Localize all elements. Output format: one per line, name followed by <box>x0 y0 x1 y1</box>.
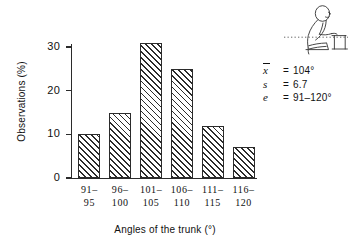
bar-chart-figure: 0102030 Observations (%) Angles of the t… <box>0 0 354 248</box>
bar <box>140 43 162 178</box>
seated-person-leaning-forward-icon <box>282 4 350 58</box>
statistics-block: x=104°s=6.7e=91–120° <box>263 64 332 105</box>
y-axis-title: Observations (%) <box>16 37 27 167</box>
x-axis-category-label-line: 116– <box>221 184 267 197</box>
statistic-row: x=104° <box>263 64 332 78</box>
plot-area <box>72 40 258 178</box>
y-axis-tick-label: 0 <box>20 172 60 183</box>
statistic-value: 91–120° <box>293 92 332 105</box>
statistic-row: e=91–120° <box>263 91 332 105</box>
statistic-row: s=6.7 <box>263 78 332 92</box>
x-axis-category-label-line: 120 <box>221 197 267 210</box>
statistic-value: 104° <box>293 65 314 78</box>
statistic-value: 6.7 <box>293 79 308 92</box>
statistic-equals-sign: = <box>279 65 293 78</box>
bar <box>109 113 131 179</box>
statistic-equals-sign: = <box>279 92 293 105</box>
statistic-symbol: s <box>263 78 279 91</box>
statistic-equals-sign: = <box>279 79 293 92</box>
bar <box>78 134 100 178</box>
x-axis-title: Angles of the trunk (°) <box>60 224 270 235</box>
bar <box>171 69 193 178</box>
statistic-symbol: e <box>263 91 279 104</box>
bar <box>233 147 255 178</box>
x-axis-category-label: 116–120 <box>221 184 267 209</box>
statistic-symbol: x <box>263 64 279 77</box>
bar <box>202 126 224 178</box>
